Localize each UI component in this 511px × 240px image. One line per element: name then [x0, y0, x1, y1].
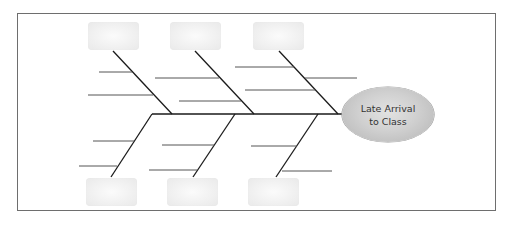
bone-top-3 — [279, 51, 338, 114]
category-label — [170, 22, 221, 50]
category-box-top-1 — [88, 22, 139, 50]
category-box-top-3 — [253, 22, 304, 50]
category-label — [88, 22, 139, 50]
category-label — [248, 178, 299, 206]
bone-bottom-1 — [111, 114, 152, 177]
effect-head: Late Arrival to Class — [342, 87, 434, 142]
category-box-bottom-1 — [86, 178, 137, 206]
effect-label-line1: Late Arrival — [361, 102, 416, 115]
bone-top-1 — [113, 51, 172, 114]
category-box-bottom-2 — [167, 178, 218, 206]
category-label — [253, 22, 304, 50]
bone-top-2 — [195, 51, 254, 114]
effect-label-line2: to Class — [369, 115, 407, 128]
category-label — [167, 178, 218, 206]
category-box-top-2 — [170, 22, 221, 50]
category-label — [86, 178, 137, 206]
category-box-bottom-3 — [248, 178, 299, 206]
